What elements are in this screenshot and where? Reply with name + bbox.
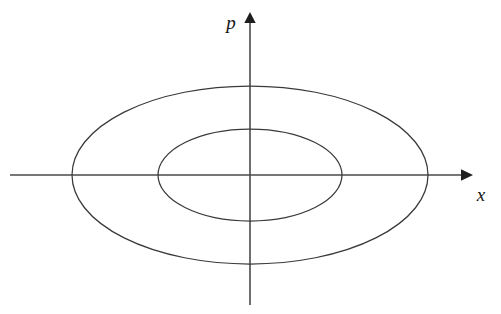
x-axis-label: x [476,184,486,205]
p-axis-label: p [224,12,236,33]
figure-root: p x [0,0,501,314]
phase-space-plot: p x [0,0,501,314]
